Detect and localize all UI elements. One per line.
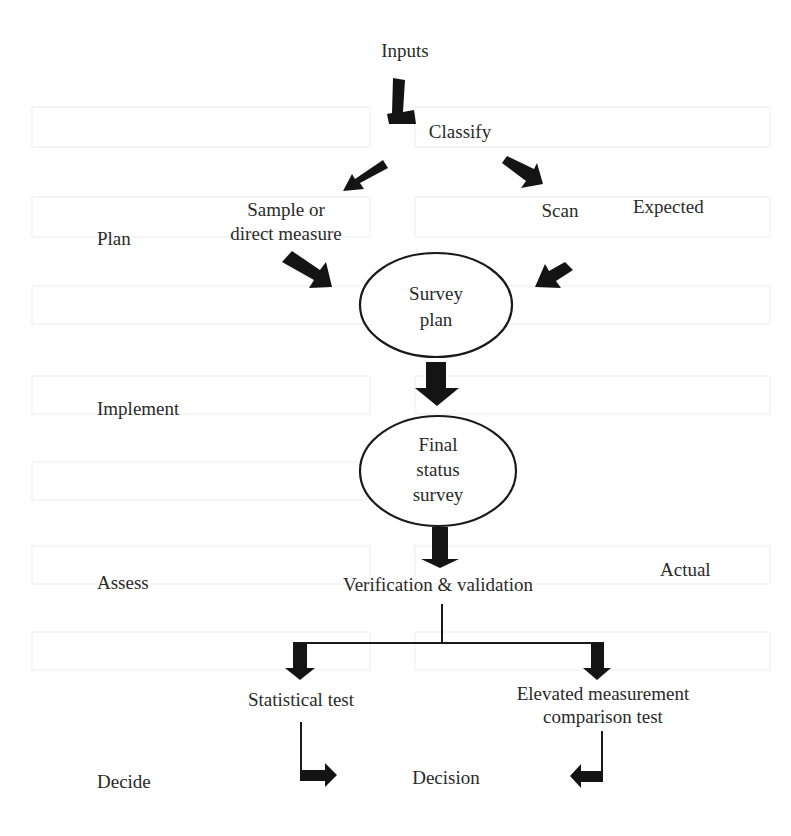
node-survey-plan-ellipse: [360, 253, 512, 357]
label-actual: Actual: [660, 559, 711, 580]
node-final-line2: status: [416, 459, 459, 480]
arrow-inputs-to-classify: [387, 78, 416, 124]
node-survey-plan-line1: Survey: [409, 283, 463, 304]
survey-process-diagram: Inputs Classify Sample or direct measure…: [0, 0, 791, 836]
node-elevated-line1: Elevated measurement: [517, 683, 690, 704]
node-survey-plan-line2: plan: [420, 309, 453, 330]
node-statistical-test: Statistical test: [248, 689, 355, 710]
arrow-classify-to-scan: [502, 156, 543, 188]
label-expected: Expected: [633, 196, 704, 217]
node-inputs: Inputs: [381, 40, 429, 61]
node-final-line3: survey: [413, 484, 464, 505]
node-elevated-line2: comparison test: [543, 706, 664, 727]
arrow-classify-to-sample: [343, 160, 388, 191]
arrow-final-to-verification: [421, 527, 459, 568]
node-sample-line1: Sample or: [247, 199, 325, 220]
arrow-to-statistical-test: [285, 643, 315, 680]
phase-decide: Decide: [97, 771, 151, 792]
arrow-statistical-to-decision: [300, 763, 337, 787]
arrow-survey-plan-to-final-status: [415, 362, 459, 406]
arrow-scan-to-survey-plan: [535, 262, 573, 288]
node-sample-line2: direct measure: [230, 223, 341, 244]
arrow-elevated-to-decision: [570, 764, 603, 788]
arrow-sample-to-survey-plan: [282, 251, 332, 288]
phase-assess: Assess: [97, 572, 149, 593]
node-verification: Verification & validation: [343, 574, 533, 595]
node-classify: Classify: [429, 121, 492, 142]
node-scan: Scan: [542, 200, 579, 221]
arrow-to-elevated-measurement: [583, 643, 611, 680]
phase-implement: Implement: [97, 398, 180, 419]
node-final-line1: Final: [418, 434, 457, 455]
phase-plan: Plan: [97, 228, 131, 249]
node-decision: Decision: [412, 767, 480, 788]
